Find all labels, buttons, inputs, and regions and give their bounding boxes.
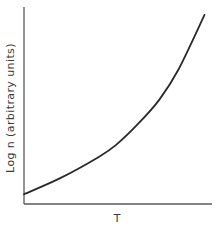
x-axis-label: T — [114, 212, 121, 225]
chart-plot-area — [0, 0, 221, 231]
y-axis-label: Log n (arbitrary units) — [4, 43, 17, 173]
data-curve — [24, 15, 205, 194]
